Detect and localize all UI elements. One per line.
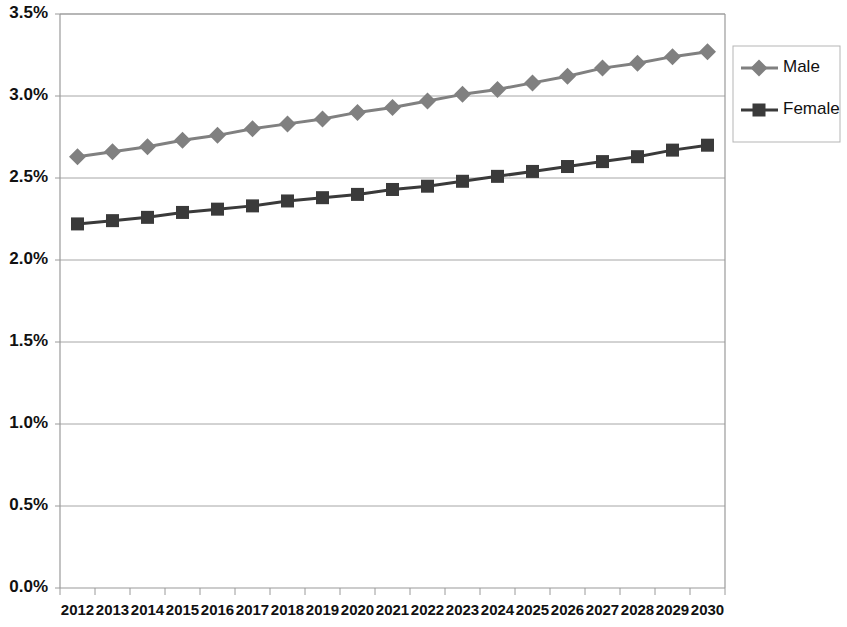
data-point-marker: [141, 211, 154, 224]
chart-canvas: 0.0%0.5%1.0%1.5%2.0%2.5%3.0%3.5% 2012201…: [0, 0, 847, 627]
y-axis-tick-label: 2.5%: [9, 167, 48, 186]
x-axis-tick-label: 2014: [131, 601, 165, 618]
x-axis-tick-label: 2017: [236, 601, 269, 618]
data-point-marker: [106, 214, 119, 227]
y-axis-tick-label: 3.0%: [9, 85, 48, 104]
data-point-marker: [526, 165, 539, 178]
data-point-marker: [631, 150, 644, 163]
y-axis-tick-label: 1.5%: [9, 331, 48, 350]
data-point-marker: [421, 180, 434, 193]
legend-label: Male: [783, 57, 820, 76]
x-axis-tick-label: 2019: [306, 601, 339, 618]
data-point-marker: [246, 199, 259, 212]
x-axis-tick-label: 2015: [166, 601, 199, 618]
data-point-marker: [753, 104, 766, 117]
chart-background: [0, 0, 847, 627]
x-axis-tick-label: 2027: [586, 601, 619, 618]
legend-label: Female: [783, 99, 840, 118]
y-axis-tick-label: 3.5%: [9, 3, 48, 22]
data-point-marker: [386, 183, 399, 196]
data-point-marker: [701, 139, 714, 152]
data-point-marker: [596, 155, 609, 168]
y-axis-tick-label: 2.0%: [9, 249, 48, 268]
data-point-marker: [211, 203, 224, 216]
x-axis-tick-label: 2030: [691, 601, 724, 618]
x-axis-tick-label: 2012: [61, 601, 94, 618]
x-axis-tick-label: 2013: [96, 601, 129, 618]
x-axis-tick-label: 2028: [621, 601, 654, 618]
line-chart: 0.0%0.5%1.0%1.5%2.0%2.5%3.0%3.5% 2012201…: [0, 0, 847, 627]
y-axis-tick-label: 1.0%: [9, 413, 48, 432]
x-axis-tick-label: 2029: [656, 601, 689, 618]
data-point-marker: [71, 217, 84, 230]
x-axis-tick-label: 2021: [376, 601, 409, 618]
x-axis-tick-labels: 2012201320142015201620172018201920202021…: [61, 601, 724, 618]
data-point-marker: [316, 191, 329, 204]
x-axis-tick-label: 2023: [446, 601, 479, 618]
x-axis-tick-label: 2024: [481, 601, 515, 618]
x-axis-tick-label: 2016: [201, 601, 234, 618]
x-axis-tick-label: 2022: [411, 601, 444, 618]
data-point-marker: [491, 170, 504, 183]
data-point-marker: [176, 206, 189, 219]
y-axis-tick-label: 0.5%: [9, 495, 48, 514]
x-axis-tick-label: 2026: [551, 601, 584, 618]
data-point-marker: [281, 194, 294, 207]
x-axis-tick-label: 2025: [516, 601, 549, 618]
data-point-marker: [351, 188, 364, 201]
data-point-marker: [561, 160, 574, 173]
data-point-marker: [666, 144, 679, 157]
y-axis-tick-label: 0.0%: [9, 577, 48, 596]
data-point-marker: [456, 175, 469, 188]
x-axis-tick-label: 2018: [271, 601, 304, 618]
x-axis-tick-label: 2020: [341, 601, 374, 618]
